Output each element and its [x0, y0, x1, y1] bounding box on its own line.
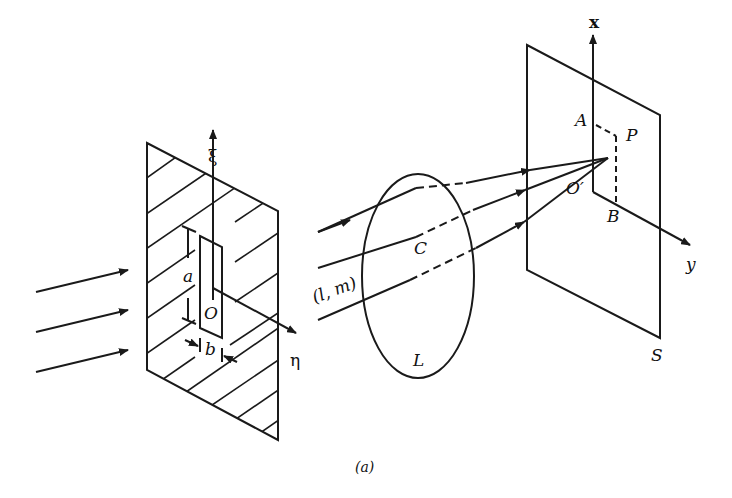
label-b: b [205, 341, 216, 358]
label-eta: η [290, 352, 300, 369]
label-x: x [589, 14, 599, 31]
label-S: S [651, 347, 663, 364]
label-xi: ξ [208, 148, 217, 165]
label-a: a [183, 268, 193, 285]
label-L: L [413, 352, 424, 369]
aperture-screen [130, 140, 290, 440]
label-y: y [686, 256, 696, 273]
label-O: O [204, 305, 218, 322]
diagram-canvas [0, 0, 732, 498]
label-O-prime: O′ [566, 180, 584, 197]
label-P: P [626, 127, 637, 144]
caption: (a) [355, 460, 374, 474]
diffraction-diagram: ξ η a b O C (l, m) L x y A P O′ B S (a) [0, 0, 732, 498]
label-C: C [414, 240, 427, 257]
label-A: A [575, 112, 587, 129]
label-B: B [607, 208, 620, 225]
incident-rays [36, 270, 128, 372]
